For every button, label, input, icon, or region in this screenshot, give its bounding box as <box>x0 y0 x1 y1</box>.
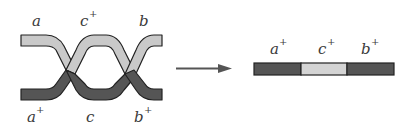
light-strand-middle-arch <box>66 35 134 74</box>
label-b-plus: b <box>134 108 144 126</box>
segment-a-plus <box>254 63 301 75</box>
label-c-plus-sup: + <box>89 8 97 19</box>
label-b-plus-sup: + <box>144 104 152 115</box>
right-label-a-plus-sup: + <box>279 36 287 47</box>
segment-b-plus <box>347 63 394 75</box>
left-bottom-labels: a + c b + <box>27 104 152 126</box>
recombination-diagram: a c + b a + c b + a + c + b + <box>0 0 418 135</box>
label-a-plus-sup: + <box>36 104 44 115</box>
label-c: c <box>86 108 95 126</box>
label-a-plus: a <box>27 108 36 126</box>
dark-strand-middle-arch <box>66 70 134 100</box>
right-label-b-plus: b <box>361 40 371 58</box>
dark-strand-left-arm <box>21 70 75 100</box>
right-label-c-plus: c <box>318 40 327 58</box>
light-strand-left-arm <box>21 35 74 70</box>
segment-c-plus <box>301 63 347 75</box>
recombinant-chromosome <box>254 63 394 75</box>
crossover-chromatids <box>21 35 162 100</box>
label-a: a <box>32 12 41 30</box>
right-label-a-plus: a <box>270 40 279 58</box>
right-label-b-plus-sup: + <box>371 36 379 47</box>
right-labels: a + c + b + <box>270 36 379 58</box>
right-label-c-plus-sup: + <box>327 36 335 47</box>
label-c-plus: c <box>80 12 89 30</box>
label-b: b <box>139 12 149 30</box>
right-arrow-icon <box>176 64 232 73</box>
dark-strand-right-arm <box>125 70 162 100</box>
left-top-labels: a c + b <box>32 8 149 30</box>
